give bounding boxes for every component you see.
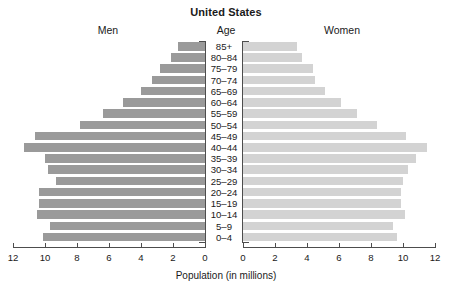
x-axis-tick-label-women: 0 <box>228 252 258 263</box>
age-group-label: 15–19 <box>202 198 246 209</box>
x-axis-tick <box>173 243 174 248</box>
bar-women <box>243 53 302 62</box>
bracket-top-left <box>199 41 206 42</box>
bar-women <box>243 132 406 141</box>
x-axis-tick-label-men: 2 <box>158 252 188 263</box>
x-axis-tick <box>307 243 308 248</box>
x-axis-tick-label-men: 8 <box>62 252 92 263</box>
x-axis-tick-label-men: 0 <box>190 252 220 263</box>
age-group-label: 85+ <box>202 41 246 52</box>
age-axis-label: Age <box>189 24 263 36</box>
bar-women <box>243 210 405 219</box>
age-group-label: 25–29 <box>202 176 246 187</box>
bar-men <box>123 98 205 107</box>
age-group-label: 80–84 <box>202 52 246 63</box>
bar-men <box>141 87 205 96</box>
bar-men <box>56 177 205 186</box>
bar-women <box>243 154 416 163</box>
bar-women <box>243 109 357 118</box>
bar-men <box>48 165 205 174</box>
x-axis-tick-label-women: 10 <box>388 252 418 263</box>
x-axis-tick <box>243 243 244 248</box>
age-group-label: 70–74 <box>202 75 246 86</box>
x-axis-tick <box>141 243 142 248</box>
x-axis-tick <box>371 243 372 248</box>
x-axis-title: Population (in millions) <box>0 270 452 281</box>
bracket-right-line <box>242 41 243 243</box>
bar-men <box>43 233 205 242</box>
bar-women <box>243 64 313 73</box>
women-series-label: Women <box>307 24 377 36</box>
population-pyramid-chart: United States Men Age Women 85+80–8475–7… <box>0 0 452 294</box>
x-axis-tick-label-men: 12 <box>0 252 28 263</box>
bar-women <box>243 233 397 242</box>
age-group-label: 20–24 <box>202 187 246 198</box>
age-group-label: 65–69 <box>202 86 246 97</box>
x-axis-tick-label-men: 10 <box>30 252 60 263</box>
x-axis-tick-label-men: 6 <box>94 252 124 263</box>
x-axis-tick-label-women: 2 <box>260 252 290 263</box>
age-group-label: 60–64 <box>202 97 246 108</box>
x-axis-tick <box>275 243 276 248</box>
chart-title: United States <box>0 6 452 18</box>
men-series-label: Men <box>73 24 143 36</box>
bar-women <box>243 188 401 197</box>
bar-women <box>243 165 408 174</box>
x-axis-tick-label-women: 12 <box>420 252 450 263</box>
bar-men <box>80 121 205 130</box>
bar-men <box>171 53 205 62</box>
age-group-label: 5–9 <box>202 221 246 232</box>
x-axis-tick <box>77 243 78 248</box>
x-axis-tick <box>403 243 404 248</box>
x-axis-tick <box>13 243 14 248</box>
x-axis-tick-label-women: 4 <box>292 252 322 263</box>
age-group-label: 35–39 <box>202 153 246 164</box>
x-axis-tick <box>435 243 436 248</box>
x-axis-tick-label-women: 6 <box>324 252 354 263</box>
bar-men <box>152 76 205 85</box>
x-axis-tick <box>45 243 46 248</box>
age-group-label: 30–34 <box>202 164 246 175</box>
x-axis-tick <box>339 243 340 248</box>
age-group-label: 75–79 <box>202 63 246 74</box>
x-axis-tick <box>205 243 206 248</box>
age-group-label: 55–59 <box>202 108 246 119</box>
bar-women <box>243 121 377 130</box>
x-axis-tick-label-men: 4 <box>126 252 156 263</box>
x-axis-tick-label-women: 8 <box>356 252 386 263</box>
bar-men <box>39 199 205 208</box>
bar-men <box>50 222 205 231</box>
age-group-label: 45–49 <box>202 131 246 142</box>
bar-women <box>243 98 341 107</box>
bar-women <box>243 177 403 186</box>
age-group-label: 0–4 <box>202 232 246 243</box>
age-group-label: 40–44 <box>202 142 246 153</box>
bar-women <box>243 143 427 152</box>
bar-women <box>243 222 393 231</box>
bar-men <box>39 188 205 197</box>
bar-women <box>243 42 297 51</box>
bar-men <box>24 143 205 152</box>
bracket-top-right <box>242 41 249 42</box>
age-group-label: 10–14 <box>202 209 246 220</box>
bar-men <box>178 42 205 51</box>
x-axis-tick <box>109 243 110 248</box>
bar-men <box>37 210 205 219</box>
bar-men <box>103 109 205 118</box>
bar-women <box>243 199 401 208</box>
bar-men <box>45 154 205 163</box>
age-group-label: 50–54 <box>202 120 246 131</box>
bar-men <box>160 64 205 73</box>
bar-women <box>243 76 315 85</box>
bar-women <box>243 87 325 96</box>
bracket-left-line <box>205 41 206 243</box>
x-axis-line-men <box>14 247 206 248</box>
bar-men <box>35 132 205 141</box>
